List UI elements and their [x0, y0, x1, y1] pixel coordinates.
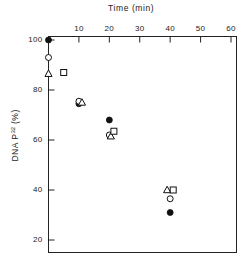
data-point — [164, 186, 171, 192]
data-markers — [45, 37, 176, 216]
series-open-triangle — [45, 70, 171, 193]
data-point — [46, 55, 52, 61]
data-point — [111, 128, 117, 134]
data-point — [46, 37, 52, 43]
plot-frame — [49, 37, 237, 253]
y-axis-ticks — [49, 40, 55, 240]
chart-figure: Time (min) DNA P32 (%) 102030405060 1008… — [0, 0, 250, 262]
series-open-square — [61, 70, 177, 194]
data-point — [45, 70, 52, 76]
x-axis-ticks — [79, 37, 231, 43]
plot-area — [0, 0, 250, 262]
data-point — [106, 117, 112, 123]
data-point — [61, 70, 67, 76]
series-filled-circle — [46, 37, 174, 216]
data-point — [167, 196, 173, 202]
data-point — [170, 187, 176, 193]
data-point — [167, 210, 173, 216]
series-open-circle — [46, 55, 174, 202]
